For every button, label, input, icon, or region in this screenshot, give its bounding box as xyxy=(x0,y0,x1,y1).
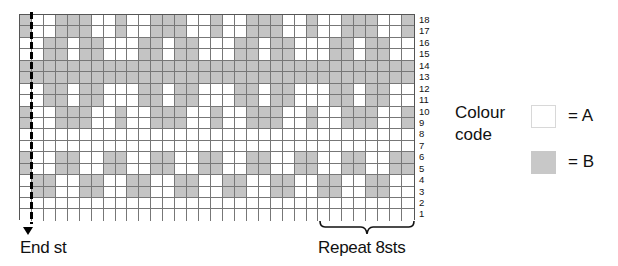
stitch-cell-b xyxy=(223,72,235,83)
stitch-cell-b xyxy=(271,15,283,26)
stitch-cell-a xyxy=(187,118,199,129)
stitch-cell-a xyxy=(330,209,342,220)
stitch-cell-a xyxy=(318,129,330,140)
stitch-cell-b xyxy=(44,187,56,198)
stitch-cell-a xyxy=(402,84,414,95)
stitch-cell-a xyxy=(223,164,235,175)
stitch-cell-b xyxy=(104,164,116,175)
stitch-cell-b xyxy=(56,152,68,163)
stitch-cell-a xyxy=(235,118,247,129)
stitch-cell-a xyxy=(151,175,163,186)
stitch-cell-a xyxy=(211,175,223,186)
stitch-cell-b xyxy=(92,175,104,186)
stitch-cell-b xyxy=(402,15,414,26)
stitch-cell-b xyxy=(283,49,295,60)
stitch-cell-b xyxy=(211,152,223,163)
stitch-cell-a xyxy=(68,141,80,152)
row-number: 4 xyxy=(419,174,439,185)
stitch-cell-a xyxy=(378,129,390,140)
stitch-cell-a xyxy=(390,175,402,186)
row-number: 15 xyxy=(419,48,439,59)
stitch-cell-b xyxy=(342,26,354,37)
stitch-cell-a xyxy=(44,164,56,175)
stitch-cell-b xyxy=(259,61,271,72)
stitch-cell-a xyxy=(295,209,307,220)
stitch-cell-a xyxy=(44,209,56,220)
chart-row xyxy=(20,198,414,209)
stitch-cell-b xyxy=(318,187,330,198)
stitch-cell-b xyxy=(235,84,247,95)
stitch-cell-b xyxy=(116,26,128,37)
chart-row xyxy=(20,49,414,60)
stitch-cell-a xyxy=(295,118,307,129)
stitch-cell-b xyxy=(68,107,80,118)
repeat-label: Repeat 8sts xyxy=(318,238,405,258)
stitch-cell-b xyxy=(187,61,199,72)
stitch-cell-b xyxy=(92,38,104,49)
stitch-cell-b xyxy=(271,95,283,106)
stitch-cell-a xyxy=(127,49,139,60)
stitch-cell-b xyxy=(307,15,319,26)
stitch-cell-a xyxy=(211,209,223,220)
chart-row xyxy=(20,26,414,37)
stitch-cell-a xyxy=(378,198,390,209)
row-number: 16 xyxy=(419,37,439,48)
stitch-cell-b xyxy=(163,26,175,37)
stitch-cell-b xyxy=(342,164,354,175)
stitch-cell-a xyxy=(199,38,211,49)
stitch-cell-b xyxy=(80,72,92,83)
row-number: 18 xyxy=(419,14,439,25)
stitch-cell-b xyxy=(259,118,271,129)
stitch-cell-a xyxy=(283,129,295,140)
stitch-cell-a xyxy=(402,198,414,209)
stitch-cell-b xyxy=(68,118,80,129)
stitch-cell-a xyxy=(366,141,378,152)
row-number: 2 xyxy=(419,197,439,208)
stitch-cell-a xyxy=(247,209,259,220)
stitch-cell-a xyxy=(354,84,366,95)
stitch-cell-a xyxy=(354,49,366,60)
stitch-cell-a xyxy=(330,164,342,175)
stitch-cell-b xyxy=(175,84,187,95)
stitch-cell-a xyxy=(330,26,342,37)
stitch-cell-a xyxy=(32,164,44,175)
stitch-cell-a xyxy=(390,187,402,198)
stitch-cell-a xyxy=(283,15,295,26)
stitch-cell-a xyxy=(342,141,354,152)
stitch-cell-b xyxy=(235,49,247,60)
stitch-cell-a xyxy=(330,15,342,26)
row-number: 12 xyxy=(419,83,439,94)
stitch-cell-b xyxy=(56,84,68,95)
stitch-cell-b xyxy=(211,118,223,129)
stitch-cell-a xyxy=(390,84,402,95)
stitch-cell-a xyxy=(127,26,139,37)
stitch-cell-a xyxy=(283,198,295,209)
stitch-cell-b xyxy=(139,72,151,83)
stitch-cell-b xyxy=(283,95,295,106)
stitch-cell-b xyxy=(366,175,378,186)
stitch-cell-b xyxy=(175,187,187,198)
stitch-cell-b xyxy=(366,61,378,72)
stitch-cell-b xyxy=(330,38,342,49)
stitch-cell-a xyxy=(199,141,211,152)
stitch-cell-b xyxy=(32,72,44,83)
stitch-cell-b xyxy=(175,72,187,83)
stitch-cell-b xyxy=(163,61,175,72)
stitch-cell-b xyxy=(151,49,163,60)
stitch-cell-a xyxy=(44,107,56,118)
row-number: 6 xyxy=(419,151,439,162)
stitch-cell-a xyxy=(175,198,187,209)
stitch-cell-a xyxy=(235,209,247,220)
stitch-cell-b xyxy=(56,15,68,26)
stitch-cell-b xyxy=(151,38,163,49)
stitch-cell-a xyxy=(307,129,319,140)
stitch-cell-a xyxy=(402,209,414,220)
stitch-cell-a xyxy=(116,95,128,106)
stitch-cell-a xyxy=(223,49,235,60)
stitch-cell-b xyxy=(235,61,247,72)
chart-row xyxy=(20,187,414,198)
stitch-cell-a xyxy=(116,84,128,95)
stitch-cell-a xyxy=(223,141,235,152)
stitch-cell-a xyxy=(402,95,414,106)
stitch-cell-b xyxy=(283,72,295,83)
